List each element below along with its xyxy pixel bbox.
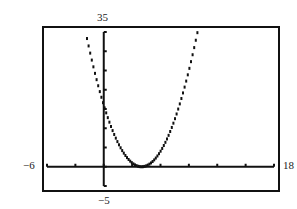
axes bbox=[47, 32, 274, 186]
x-min-label: −6 bbox=[23, 160, 35, 171]
y-max-label: 35 bbox=[97, 12, 108, 23]
graph-plot bbox=[0, 0, 297, 209]
x-max-label: 18 bbox=[283, 160, 294, 171]
y-min-label: −5 bbox=[98, 195, 110, 206]
